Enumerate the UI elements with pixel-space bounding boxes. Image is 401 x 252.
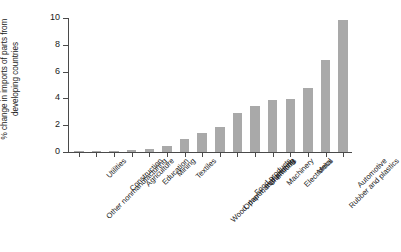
y-axis-tick: 4 <box>63 98 68 99</box>
x-axis-tick <box>114 153 115 157</box>
y-axis-tick: 2 <box>63 125 68 126</box>
bar <box>145 149 155 152</box>
bar <box>286 99 296 152</box>
bar <box>250 106 260 152</box>
y-axis-tick-label: 2 <box>55 119 60 129</box>
y-axis-tick: 6 <box>63 72 68 73</box>
y-axis-tick-label: 10 <box>50 12 60 22</box>
plot-area: 0246810 <box>68 18 352 152</box>
x-axis-tick <box>96 153 97 157</box>
x-axis-label: Textiles <box>194 157 218 181</box>
y-axis-title: % change in imports of parts from develo… <box>0 0 21 158</box>
bar <box>197 133 207 152</box>
bar <box>74 151 84 152</box>
bar <box>321 60 331 152</box>
bar-series <box>69 18 352 152</box>
bar <box>92 151 102 152</box>
x-axis-tick <box>343 153 344 157</box>
bar <box>268 100 278 152</box>
bar <box>303 88 313 152</box>
bar <box>180 139 190 152</box>
y-axis-tick-label: 8 <box>55 39 60 49</box>
x-axis-tick <box>79 153 80 157</box>
bar <box>127 150 137 152</box>
y-axis-tick-label: 6 <box>55 66 60 76</box>
x-axis-tick <box>132 153 133 157</box>
y-axis-tick: 0 <box>63 152 68 153</box>
x-axis-tick <box>220 153 221 157</box>
x-axis-tick <box>237 153 238 157</box>
x-axis-tick <box>149 153 150 157</box>
bar <box>338 20 348 152</box>
y-axis-title-container: % change in imports of parts from develo… <box>0 0 34 160</box>
y-axis-tick: 10 <box>63 18 68 19</box>
y-axis-tick-label: 4 <box>55 92 60 102</box>
x-axis-label: Utilities <box>106 157 129 180</box>
y-axis-tick-label: 0 <box>55 146 60 156</box>
x-axis-tick <box>273 153 274 157</box>
y-axis-tick: 8 <box>63 45 68 46</box>
bar <box>109 151 119 152</box>
x-axis-line <box>68 152 352 153</box>
bar <box>215 127 225 152</box>
x-axis-label: Metal <box>315 157 334 176</box>
x-axis-tick <box>255 153 256 157</box>
x-axis-tick <box>202 153 203 157</box>
bar <box>233 113 243 152</box>
bar <box>162 146 172 152</box>
